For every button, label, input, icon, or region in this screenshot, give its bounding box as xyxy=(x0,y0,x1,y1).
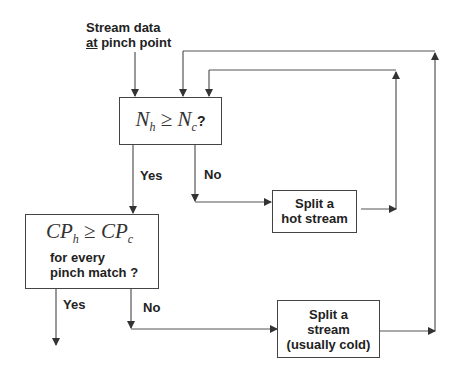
decision1-yes-label: Yes xyxy=(140,168,162,183)
start-label-line1: Stream data xyxy=(86,20,171,35)
split-hot-stream-box: Split a hot stream xyxy=(272,190,357,233)
decision1-no-label: No xyxy=(204,167,221,182)
split-cold-line2: stream xyxy=(278,322,379,337)
start-label: Stream data at pinch point xyxy=(86,20,171,50)
decision-cp-formula: CPh ≥ CPc xyxy=(46,220,158,250)
question-mark: ? xyxy=(197,114,206,129)
split-cold-stream-box: Split a stream (usually cold) xyxy=(277,300,380,358)
split-cold-line3: (usually cold) xyxy=(278,337,379,352)
decision2-yes-label: Yes xyxy=(63,297,85,312)
connector-lines xyxy=(0,0,462,375)
split-hot-line1: Split a xyxy=(273,196,356,211)
start-label-line2: at pinch point xyxy=(86,35,171,50)
decision2-no-label: No xyxy=(143,300,160,315)
split-hot-line2: hot stream xyxy=(273,211,356,226)
decision-count-box: Nh ≥ Nc ? xyxy=(119,97,222,145)
decision-cp-box: CPh ≥ CPc for every pinch match ? xyxy=(25,214,159,289)
decision-cp-line2: for every xyxy=(50,250,158,265)
pinch-point-text: pinch point xyxy=(98,35,172,50)
decision-cp-line3: pinch match ? xyxy=(50,265,158,280)
decision-count-formula: Nh ≥ Nc xyxy=(136,107,197,135)
underlined-at: at xyxy=(86,35,98,50)
split-cold-line1: Split a xyxy=(278,307,379,322)
